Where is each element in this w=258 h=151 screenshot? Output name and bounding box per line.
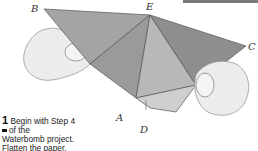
step-number: 1 <box>2 114 8 126</box>
label-e: E <box>145 1 154 12</box>
label-b: B <box>30 3 38 14</box>
caption-line-4: Flatten the paper. <box>2 144 102 151</box>
step-caption: 1 Begin with Step 4 of the Waterbomb pro… <box>2 116 102 151</box>
right-hand-icon <box>195 61 249 115</box>
label-c: C <box>248 41 256 52</box>
step-dash <box>2 129 7 132</box>
label-a: A <box>115 112 123 123</box>
label-d: D <box>139 124 148 135</box>
